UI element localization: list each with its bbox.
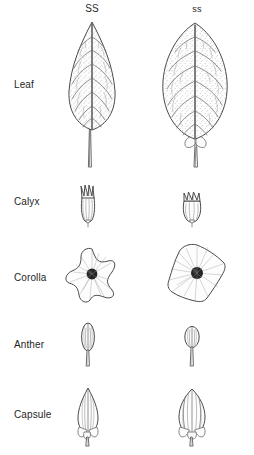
anther-specimen-ss [73, 320, 103, 368]
capsule-specimen-ss [70, 385, 106, 447]
column-header-ss-dominant: SS [85, 3, 99, 14]
leaf-specimen-ss-rec [149, 17, 245, 177]
row-label-capsule: Capsule [14, 409, 51, 420]
capsule-specimen-ss-rec [172, 385, 212, 447]
row-label-leaf: Leaf [14, 79, 34, 90]
column-header-ss-recessive: ss [192, 4, 201, 14]
row-label-corolla: Corolla [14, 272, 46, 283]
corolla-specimen-ss [63, 245, 121, 303]
leaf-specimen-ss [53, 17, 131, 177]
anther-specimen-ss-rec [177, 322, 207, 368]
corolla-specimen-ss-rec [164, 242, 230, 306]
row-label-calyx: Calyx [14, 196, 40, 207]
calyx-specimen-ss-rec [175, 188, 209, 228]
row-label-anther: Anther [14, 339, 44, 350]
calyx-specimen-ss [71, 184, 105, 228]
figure-root: SS ss Leaf Calyx Corolla Anther Capsule [0, 0, 254, 455]
